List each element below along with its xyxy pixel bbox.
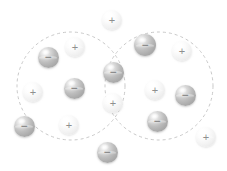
- plus-sign-icon: +: [72, 42, 78, 53]
- negative-charge-sphere: −: [64, 78, 85, 99]
- minus-sign-icon: −: [181, 89, 188, 101]
- minus-sign-icon: −: [70, 82, 77, 94]
- positive-charge-sphere: +: [103, 93, 123, 113]
- plus-sign-icon: +: [30, 87, 36, 98]
- positive-charge-sphere: +: [23, 82, 43, 102]
- negative-charge-sphere: −: [175, 85, 196, 106]
- plus-sign-icon: +: [152, 85, 158, 96]
- plus-sign-icon: +: [109, 15, 115, 26]
- plus-sign-icon: +: [179, 46, 185, 57]
- positive-charge-sphere: +: [196, 127, 216, 147]
- positive-charge-sphere: +: [172, 41, 192, 61]
- negative-charge-sphere: −: [97, 142, 118, 163]
- minus-sign-icon: −: [141, 39, 148, 51]
- positive-charge-sphere: +: [59, 115, 79, 135]
- negative-charge-sphere: −: [38, 47, 59, 68]
- minus-sign-icon: −: [109, 66, 116, 78]
- positive-charge-sphere: +: [65, 37, 85, 57]
- plus-sign-icon: +: [110, 98, 116, 109]
- negative-charge-sphere: −: [134, 34, 156, 56]
- negative-charge-sphere: −: [14, 116, 35, 137]
- plus-sign-icon: +: [66, 120, 72, 131]
- positive-charge-sphere: +: [102, 10, 122, 30]
- minus-sign-icon: −: [103, 146, 110, 158]
- diagram-canvas: ++−+−+−−+−−++−−+: [0, 0, 227, 171]
- minus-sign-icon: −: [153, 115, 160, 127]
- minus-sign-icon: −: [44, 51, 51, 63]
- minus-sign-icon: −: [20, 120, 27, 132]
- positive-charge-sphere: +: [145, 80, 165, 100]
- plus-sign-icon: +: [203, 132, 209, 143]
- negative-charge-sphere: −: [147, 111, 168, 132]
- negative-charge-sphere: −: [103, 62, 124, 83]
